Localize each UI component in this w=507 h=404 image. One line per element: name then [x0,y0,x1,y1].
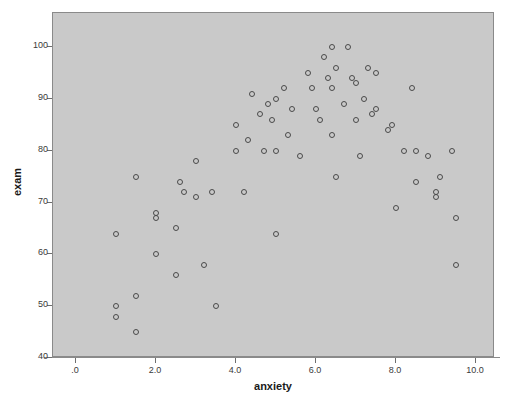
data-point [305,70,311,76]
data-point [369,111,375,117]
data-point [325,75,331,81]
x-axis-tick [235,358,236,363]
data-point [113,231,119,237]
data-point [201,262,207,268]
data-point [181,189,187,195]
data-point [245,137,251,143]
x-axis-line [44,357,500,358]
x-axis-tick-label: 10.0 [455,365,495,375]
data-point [333,65,339,71]
chart-title [0,0,507,2]
plot-area [52,12,494,357]
data-point [213,303,219,309]
data-point [153,251,159,257]
data-point [433,194,439,200]
data-point [289,106,295,112]
x-axis-tick-label: 4.0 [215,365,255,375]
x-axis-tick-label: 2.0 [135,365,175,375]
data-point [333,174,339,180]
data-point [413,179,419,185]
data-point [113,303,119,309]
data-point [425,153,431,159]
y-axis-tick-label: 60 [8,247,48,257]
data-point [453,262,459,268]
data-point [393,205,399,211]
y-axis-tick-label: 40 [8,351,48,361]
data-point [357,153,363,159]
data-point [133,293,139,299]
data-point [273,96,279,102]
x-axis-title: anxiety [52,380,494,392]
x-axis-tick [155,358,156,363]
data-point [317,117,323,123]
y-axis-tick-label: 50 [8,299,48,309]
data-point [273,231,279,237]
data-point [413,148,419,154]
data-point [153,215,159,221]
data-point [437,174,443,180]
y-axis-tick-label: 100 [8,40,48,50]
data-point [249,91,255,97]
data-point [385,127,391,133]
data-point [449,148,455,154]
data-point [193,194,199,200]
data-point [361,96,367,102]
y-axis-tick-label: 90 [8,92,48,102]
data-point [281,85,287,91]
data-point [273,148,279,154]
data-point [241,189,247,195]
x-axis-tick-label: 6.0 [295,365,335,375]
x-axis-tick-label: 8.0 [375,365,415,375]
x-axis-tick-label: .0 [55,365,95,375]
data-point [329,44,335,50]
data-point [309,85,315,91]
data-point [173,272,179,278]
data-point [177,179,183,185]
data-point [453,215,459,221]
data-point [373,70,379,76]
data-point [233,122,239,128]
y-axis-title: exam [11,152,23,212]
data-point [297,153,303,159]
data-point [365,65,371,71]
data-point [389,122,395,128]
data-point [133,329,139,335]
data-point [113,314,119,320]
x-axis-tick [395,358,396,363]
data-point [285,132,291,138]
data-point [257,111,263,117]
data-point [233,148,239,154]
scatter-plot-figure: 405060708090100.02.04.06.08.010.0 anxiet… [0,0,507,404]
data-point [353,117,359,123]
data-point [269,117,275,123]
data-point [329,85,335,91]
data-point [409,85,415,91]
x-axis-tick [315,358,316,363]
data-point [321,54,327,60]
data-point [341,101,347,107]
data-point [373,106,379,112]
data-point [313,106,319,112]
data-point [193,158,199,164]
x-axis-tick [475,358,476,363]
data-point [345,44,351,50]
data-point [133,174,139,180]
data-point [353,80,359,86]
data-point [173,225,179,231]
data-point [265,101,271,107]
data-point [209,189,215,195]
data-point [261,148,267,154]
data-point [401,148,407,154]
x-axis-tick [75,358,76,363]
data-point [329,132,335,138]
